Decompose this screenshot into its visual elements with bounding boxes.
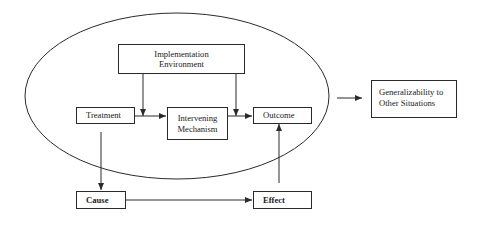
node-implementation-environment-line1: Implementation bbox=[154, 49, 208, 60]
node-effect-label: Effect bbox=[263, 195, 285, 206]
node-generalizability: Generalizability to Other Situations bbox=[371, 80, 457, 118]
node-implementation-environment-line2: Environment bbox=[159, 59, 204, 70]
node-generalizability-line1: Generalizability to bbox=[379, 87, 443, 98]
node-intervening-mechanism: Intervening Mechanism bbox=[167, 107, 228, 140]
node-generalizability-line2: Other Situations bbox=[379, 98, 435, 109]
node-cause-label: Cause bbox=[86, 195, 108, 206]
node-implementation-environment: Implementation Environment bbox=[118, 44, 245, 74]
node-cause: Cause bbox=[76, 191, 126, 209]
node-outcome-label: Outcome bbox=[263, 110, 295, 121]
node-intervening-mechanism-line1: Intervening bbox=[178, 113, 218, 124]
context-ellipse bbox=[25, 13, 329, 179]
node-treatment: Treatment bbox=[76, 107, 135, 124]
node-outcome: Outcome bbox=[253, 107, 312, 124]
node-treatment-label: Treatment bbox=[86, 110, 121, 121]
node-intervening-mechanism-line2: Mechanism bbox=[177, 124, 217, 135]
node-effect: Effect bbox=[253, 191, 312, 209]
